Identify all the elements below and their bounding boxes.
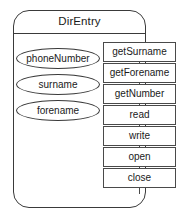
method-box-write: write bbox=[103, 126, 176, 146]
method-label: getNumber bbox=[115, 89, 164, 99]
method-label: getSurname bbox=[112, 47, 166, 57]
method-box-getforename: getForename bbox=[103, 63, 176, 83]
method-label: write bbox=[129, 131, 150, 141]
method-connector-line bbox=[139, 188, 140, 194]
class-title-compartment: DirEntry bbox=[13, 10, 146, 34]
method-box-close: close bbox=[103, 168, 176, 188]
diagram-canvas: DirEntry phoneNumber surname forename ge… bbox=[0, 0, 187, 221]
method-box-getnumber: getNumber bbox=[103, 84, 176, 104]
method-box-open: open bbox=[103, 147, 176, 167]
method-label: open bbox=[128, 152, 150, 162]
method-label: read bbox=[129, 110, 149, 120]
attribute-label: phoneNumber bbox=[26, 54, 89, 64]
method-label: close bbox=[128, 173, 151, 183]
attribute-ellipse-phonenumber: phoneNumber bbox=[16, 48, 100, 69]
attribute-label: surname bbox=[39, 80, 78, 90]
class-name-label: DirEntry bbox=[58, 16, 100, 28]
attribute-ellipse-surname: surname bbox=[16, 74, 100, 95]
method-label: getForename bbox=[110, 68, 169, 78]
method-box-getsurname: getSurname bbox=[103, 42, 176, 62]
attribute-label: forename bbox=[37, 106, 79, 116]
attribute-ellipse-forename: forename bbox=[16, 100, 100, 121]
method-box-read: read bbox=[103, 105, 176, 125]
